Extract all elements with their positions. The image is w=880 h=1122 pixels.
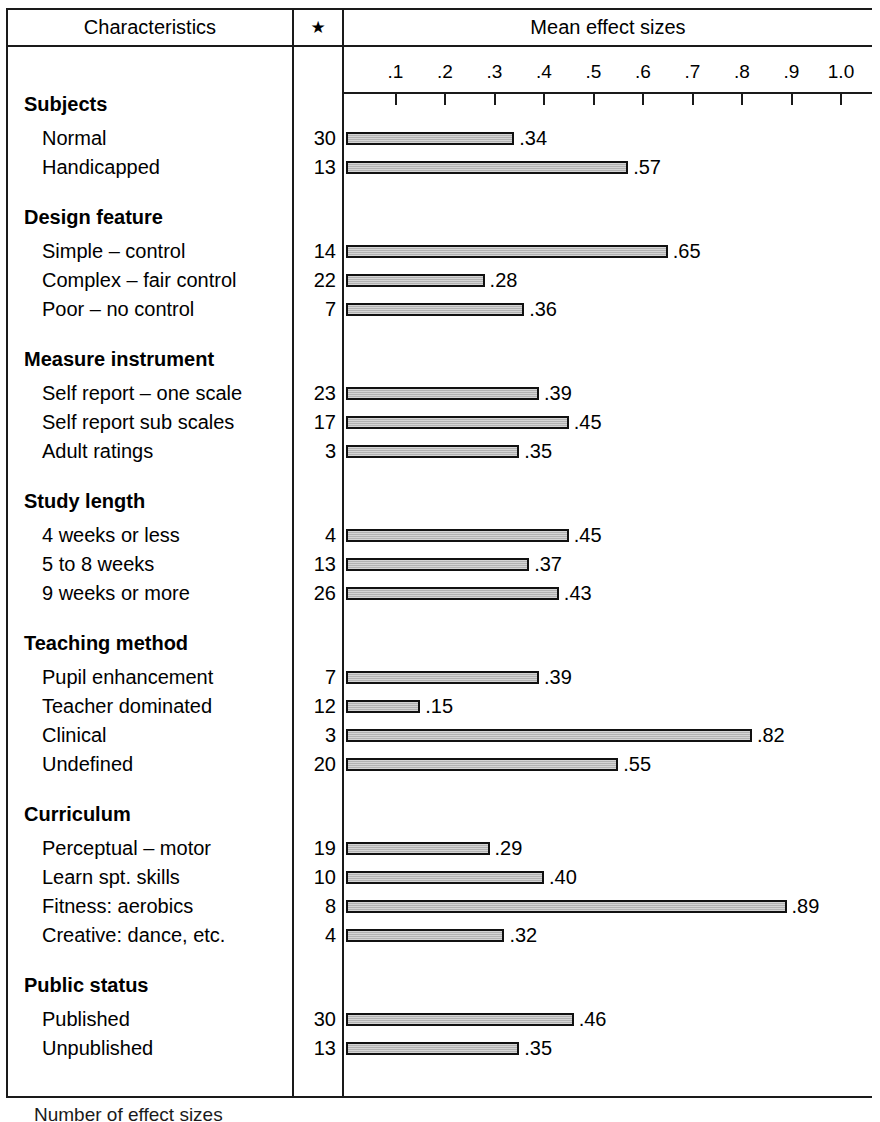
row-count: 14 xyxy=(292,238,336,264)
bar-value-label: .89 xyxy=(792,895,820,918)
row-count: 30 xyxy=(292,125,336,151)
row-label: Handicapped xyxy=(8,154,312,180)
table-row: 5 to 8 weeks13.37 xyxy=(8,551,872,577)
effect-size-bar xyxy=(346,758,618,771)
effect-size-bar xyxy=(346,445,519,458)
group-heading-label: Public status xyxy=(8,972,294,998)
row-count: 3 xyxy=(292,438,336,464)
row-label: 9 weeks or more xyxy=(8,580,312,606)
table-row: Learn spt. skills10.40 xyxy=(8,864,872,890)
footnote-text: Number of effect sizes xyxy=(34,1104,223,1122)
bar-value-label: .35 xyxy=(524,1037,552,1060)
row-label: Self report – one scale xyxy=(8,380,312,406)
row-count: 4 xyxy=(292,922,336,948)
effect-size-bar xyxy=(346,700,420,713)
row-label: Published xyxy=(8,1006,312,1032)
row-bar-container: .89 xyxy=(344,893,872,919)
effect-size-bar xyxy=(346,303,524,316)
bar-value-label: .37 xyxy=(534,553,562,576)
bar-value-label: .43 xyxy=(564,582,592,605)
group-heading-label: Teaching method xyxy=(8,630,294,656)
row-bar-container: .45 xyxy=(344,522,872,548)
effect-size-bar xyxy=(346,1013,574,1026)
row-label: Poor – no control xyxy=(8,296,312,322)
header-star-icon: ★ xyxy=(294,10,342,45)
row-bar-container: .40 xyxy=(344,864,872,890)
row-bar-container: .82 xyxy=(344,722,872,748)
row-label: Undefined xyxy=(8,751,312,777)
row-count: 4 xyxy=(292,522,336,548)
effect-size-bar xyxy=(346,871,544,884)
table-header-row: Characteristics ★ Mean effect sizes xyxy=(8,10,872,47)
row-count: 22 xyxy=(292,267,336,293)
table-row: Teacher dominated12.15 xyxy=(8,693,872,719)
group-heading-row: Curriculum xyxy=(8,801,872,827)
group-heading-row: Measure instrument xyxy=(8,346,872,372)
row-count: 8 xyxy=(292,893,336,919)
row-bar-container: .55 xyxy=(344,751,872,777)
row-label: 5 to 8 weeks xyxy=(8,551,312,577)
row-bar-container: .15 xyxy=(344,693,872,719)
effect-size-bar xyxy=(346,558,529,571)
row-bar-container: .39 xyxy=(344,380,872,406)
bar-value-label: .36 xyxy=(529,298,557,321)
bar-value-label: .15 xyxy=(425,695,453,718)
table-row: 4 weeks or less4.45 xyxy=(8,522,872,548)
group-heading-label: Subjects xyxy=(8,91,294,117)
row-bar-container: .46 xyxy=(344,1006,872,1032)
effect-size-bar xyxy=(346,132,514,145)
row-label: Fitness: aerobics xyxy=(8,893,312,919)
table-row: Pupil enhancement7.39 xyxy=(8,664,872,690)
table-row: Self report – one scale23.39 xyxy=(8,380,872,406)
effect-size-bar xyxy=(346,161,628,174)
bar-value-label: .65 xyxy=(673,240,701,263)
row-label: Clinical xyxy=(8,722,312,748)
row-count: 7 xyxy=(292,664,336,690)
effect-size-bar xyxy=(346,929,504,942)
table-row: Fitness: aerobics8.89 xyxy=(8,893,872,919)
bar-value-label: .57 xyxy=(633,156,661,179)
row-count: 7 xyxy=(292,296,336,322)
group-heading-row: Teaching method xyxy=(8,630,872,656)
row-count: 10 xyxy=(292,864,336,890)
header-mean-effect-sizes: Mean effect sizes xyxy=(344,10,872,45)
row-label: 4 weeks or less xyxy=(8,522,312,548)
bar-value-label: .45 xyxy=(574,411,602,434)
bar-value-label: .46 xyxy=(579,1008,607,1031)
row-bar-container: .32 xyxy=(344,922,872,948)
table-row: 9 weeks or more26.43 xyxy=(8,580,872,606)
row-count: 17 xyxy=(292,409,336,435)
row-label: Perceptual – motor xyxy=(8,835,312,861)
table-row: Clinical3.82 xyxy=(8,722,872,748)
row-bar-container: .45 xyxy=(344,409,872,435)
row-bar-container: .35 xyxy=(344,1035,872,1061)
row-label: Teacher dominated xyxy=(8,693,312,719)
row-count: 13 xyxy=(292,154,336,180)
effect-size-bar xyxy=(346,529,569,542)
table-row: Simple – control14.65 xyxy=(8,238,872,264)
table-row: Published30.46 xyxy=(8,1006,872,1032)
effect-size-bar xyxy=(346,416,569,429)
row-label: Normal xyxy=(8,125,312,151)
row-bar-container: .65 xyxy=(344,238,872,264)
effect-size-bar xyxy=(346,387,539,400)
row-count: 19 xyxy=(292,835,336,861)
row-count: 13 xyxy=(292,1035,336,1061)
table-row: Unpublished13.35 xyxy=(8,1035,872,1061)
group-heading-row: Public status xyxy=(8,972,872,998)
effect-size-bar xyxy=(346,1042,519,1055)
group-heading-row: Study length xyxy=(8,488,872,514)
bar-value-label: .55 xyxy=(623,753,651,776)
table-row: Perceptual – motor19.29 xyxy=(8,835,872,861)
row-bar-container: .57 xyxy=(344,154,872,180)
bar-value-label: .34 xyxy=(519,127,547,150)
row-label: Simple – control xyxy=(8,238,312,264)
table-row: Poor – no control7.36 xyxy=(8,296,872,322)
row-bar-container: .39 xyxy=(344,664,872,690)
row-count: 13 xyxy=(292,551,336,577)
header-characteristics: Characteristics xyxy=(8,10,292,45)
row-bar-container: .43 xyxy=(344,580,872,606)
row-label: Learn spt. skills xyxy=(8,864,312,890)
row-label: Unpublished xyxy=(8,1035,312,1061)
row-bar-container: .34 xyxy=(344,125,872,151)
